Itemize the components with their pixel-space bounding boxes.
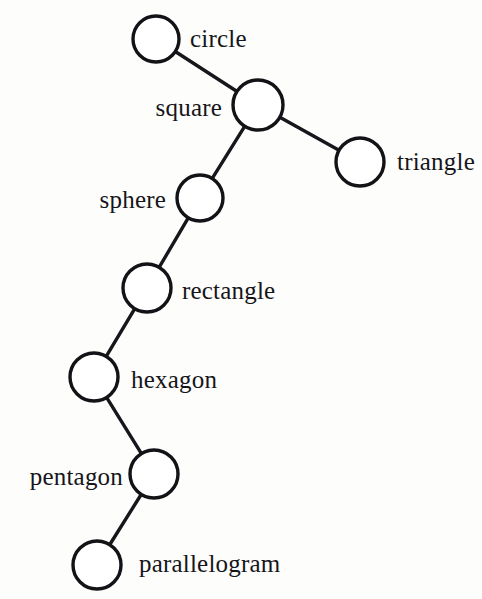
node-parallelogram[interactable]	[73, 541, 121, 589]
edge-square-sphere	[212, 125, 246, 179]
edge-circle-square	[174, 51, 237, 92]
edge-hexagon-pentagon	[106, 397, 142, 455]
figure-page: circlesquaretrianglesphererectanglehexag…	[0, 0, 482, 599]
node-label-square: square	[156, 95, 222, 120]
node-triangle[interactable]	[336, 138, 384, 186]
node-hexagon[interactable]	[70, 353, 118, 401]
node-label-circle: circle	[190, 26, 247, 51]
node-pentagon[interactable]	[130, 450, 178, 498]
node-label-rectangle: rectangle	[182, 278, 275, 303]
node-rectangle[interactable]	[123, 264, 171, 312]
edge-sphere-rectangle	[159, 217, 189, 268]
node-label-pentagon: pentagon	[30, 464, 123, 489]
edge-pentagon-parallelogram	[109, 493, 142, 545]
node-label-triangle: triangle	[397, 149, 475, 174]
edge-square-triangle	[279, 117, 340, 151]
node-circle[interactable]	[133, 16, 179, 62]
node-square[interactable]	[233, 80, 283, 130]
edge-rectangle-hexagon	[106, 308, 135, 357]
node-label-sphere: sphere	[100, 187, 166, 212]
node-sphere[interactable]	[177, 175, 223, 221]
node-label-hexagon: hexagon	[131, 367, 217, 392]
node-label-parallelogram: parallelogram	[139, 551, 280, 576]
